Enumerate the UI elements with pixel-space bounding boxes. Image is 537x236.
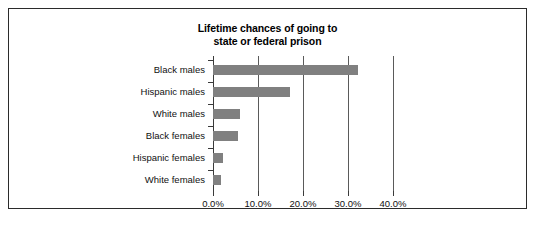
xtick-mark-10	[258, 191, 259, 196]
plot-area: Black males Hispanic males White males B…	[205, 56, 393, 194]
bar-row: Hispanic males	[213, 87, 290, 97]
gridline-10	[258, 56, 259, 191]
bar-white-males	[213, 109, 240, 119]
xtick-label-0: 0.0%	[202, 198, 224, 209]
bar-row: White females	[213, 175, 221, 185]
chart-title-line-2: state or federal prison	[9, 35, 526, 48]
bar-row: Black males	[213, 65, 358, 75]
xtick-mark-20	[303, 191, 304, 196]
xtick-mark-40	[393, 191, 394, 196]
chart-title-line-1: Lifetime chances of going to	[9, 22, 526, 35]
bar-row: White males	[213, 109, 240, 119]
bar-row: Hispanic females	[213, 153, 223, 163]
category-label: White males	[153, 109, 205, 119]
bar-hispanic-males	[213, 87, 290, 97]
y-axis-line	[213, 56, 214, 191]
ytick-mark-0	[208, 60, 213, 61]
bar-white-females	[213, 175, 221, 185]
bar-black-females	[213, 131, 238, 141]
ytick-mark-1	[208, 82, 213, 83]
xtick-label-20: 20.0%	[290, 198, 317, 209]
xtick-mark-0	[213, 191, 214, 196]
ytick-mark-4	[208, 148, 213, 149]
bar-hispanic-females	[213, 153, 223, 163]
category-label: White females	[145, 175, 205, 185]
gridline-40	[393, 56, 394, 191]
ytick-mark-5	[208, 170, 213, 171]
bar-row: Black females	[213, 131, 238, 141]
bar-black-males	[213, 65, 358, 75]
gridline-20	[303, 56, 304, 191]
gridline-30	[348, 56, 349, 191]
category-label: Hispanic females	[133, 153, 205, 163]
chart-figure-frame: Lifetime chances of going to state or fe…	[8, 8, 527, 209]
xtick-label-10: 10.0%	[245, 198, 272, 209]
chart-title: Lifetime chances of going to state or fe…	[9, 22, 526, 48]
xtick-label-30: 30.0%	[335, 198, 362, 209]
xtick-label-40: 40.0%	[380, 198, 407, 209]
category-label: Black females	[146, 131, 205, 141]
category-label: Hispanic males	[141, 87, 205, 97]
category-label: Black males	[154, 65, 205, 75]
ytick-mark-2	[208, 104, 213, 105]
xtick-mark-30	[348, 191, 349, 196]
ytick-mark-3	[208, 126, 213, 127]
